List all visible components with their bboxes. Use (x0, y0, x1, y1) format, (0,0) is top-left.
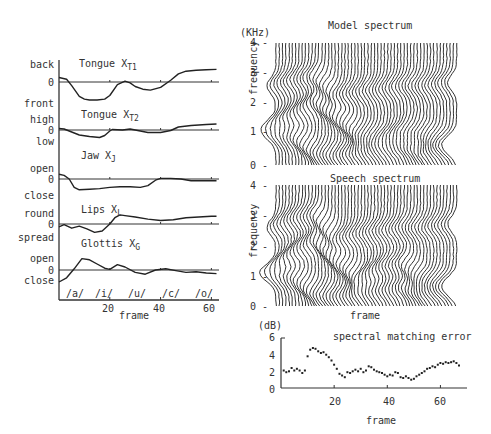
speech-ytick-3: 3 - (250, 210, 268, 221)
error-unit: (dB) (258, 320, 282, 331)
tongue-t2-zero-label: 0 (14, 125, 54, 136)
vowel-o: /o/ (195, 288, 213, 299)
vowel-i: /i/ (95, 288, 113, 299)
speech-spectrum-title: Speech spectrum (330, 173, 420, 184)
lips-zero-label: 0 (14, 219, 54, 230)
error-ytick-4: 4 (269, 350, 275, 361)
tongue-t2-title: Tongue XT2 (81, 109, 139, 124)
jaw-top-label: open (14, 163, 54, 174)
tongue-t1-zero-label: 0 (14, 77, 54, 88)
glottis-top-label: open (14, 253, 54, 264)
model-ytick-2: 2 - (250, 97, 268, 108)
error-ytick-0: 0 (269, 384, 275, 395)
error-title: spectral matching error (333, 331, 471, 342)
articulatory-plot (0, 0, 491, 434)
model-ytick-0: 0 - (250, 160, 268, 171)
tongue-t2-bottom-label: low (14, 136, 54, 147)
vowel-u: /u/ (128, 288, 146, 299)
speech-ytick-0: 0 - (250, 301, 268, 312)
vowel-a: /a/ (66, 288, 84, 299)
model-ytick-1: 1 - (250, 126, 268, 137)
jaw-zero-label: 0 (14, 174, 54, 185)
error-xtick-40: 40 (383, 396, 395, 407)
error-xtick-20: 20 (329, 396, 341, 407)
left-xtick-20: 20 (102, 303, 114, 314)
speech-ytick-2: 2 - (250, 241, 268, 252)
tongue-t2-top-label: high (14, 114, 54, 125)
model-ytick-3: 3 - (250, 67, 268, 78)
model-spectrum-title: Model spectrum (328, 20, 412, 31)
speech-ytick-1: 1 - (250, 271, 268, 282)
left-xtick-60: 60 (203, 303, 215, 314)
jaw-bottom-label: close (14, 190, 54, 201)
left-xlabel: frame (119, 310, 149, 321)
lips-top-label: round (14, 208, 54, 219)
lips-bottom-label: spread (14, 232, 54, 243)
speech-ytick-4: 4 - (250, 180, 268, 191)
model-ytick-4: 4 - (250, 37, 268, 48)
left-xtick-40: 40 (153, 303, 165, 314)
tongue-t1-title: Tongue XT1 (79, 58, 137, 73)
speech-xlabel: frame (350, 310, 380, 321)
lips-title: Lips XL (81, 204, 122, 219)
vowel-c: /c/ (162, 288, 180, 299)
error-ytick-2: 2 (269, 367, 275, 378)
error-ytick-6: 6 (269, 332, 275, 343)
error-xtick-60: 60 (434, 396, 446, 407)
error-xlabel: frame (366, 415, 396, 426)
glottis-title: Glottis XG (81, 238, 140, 253)
tongue-t1-bottom-label: front (14, 98, 54, 109)
glottis-bottom-label: close (14, 275, 54, 286)
jaw-title: Jaw XJ (81, 150, 116, 165)
tongue-t1-top-label: back (14, 59, 54, 70)
